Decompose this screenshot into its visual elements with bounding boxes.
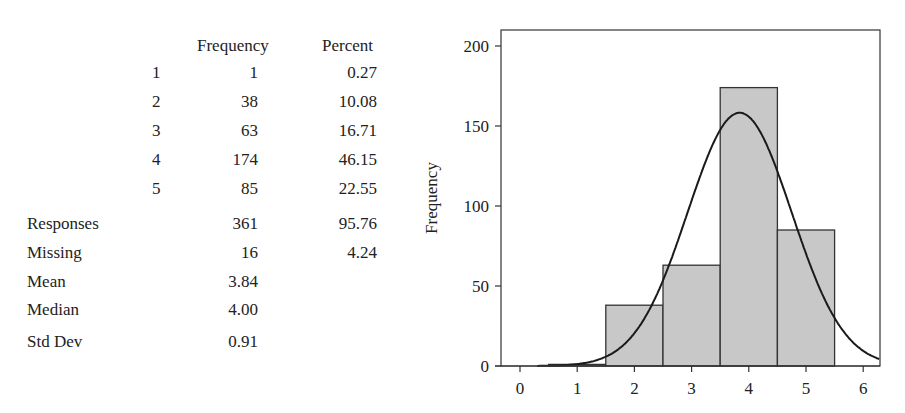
- x-tick-label: 0: [516, 379, 525, 398]
- x-tick-label: 2: [630, 379, 639, 398]
- x-tick-label: 6: [859, 379, 868, 398]
- histogram-bars: [549, 88, 835, 366]
- y-axis: 050100150200: [464, 37, 502, 376]
- histogram-bar: [606, 305, 663, 366]
- y-tick-label: 200: [464, 37, 490, 56]
- histogram-bar: [720, 88, 777, 366]
- y-tick-label: 0: [481, 357, 490, 376]
- x-axis: 0123456: [495, 366, 880, 398]
- y-tick-label: 100: [464, 197, 490, 216]
- y-tick-label: 50: [472, 277, 489, 296]
- x-tick-label: 4: [745, 379, 754, 398]
- histogram-bar: [777, 230, 834, 366]
- histogram-bar: [663, 265, 720, 366]
- x-tick-label: 3: [687, 379, 696, 398]
- y-axis-label: Frequency: [422, 162, 441, 234]
- y-tick-label: 150: [464, 117, 490, 136]
- x-tick-label: 1: [573, 379, 582, 398]
- histogram-chart: 050100150200 0123456 Frequency: [0, 0, 905, 413]
- x-tick-label: 5: [802, 379, 811, 398]
